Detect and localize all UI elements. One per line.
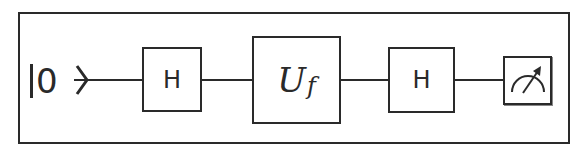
gate-label: H (163, 66, 181, 94)
wire-segment-4 (453, 79, 505, 81)
oracle-gate-uf: Uf (252, 36, 341, 124)
wire-segment-1 (74, 79, 144, 81)
wire-segment-2 (200, 79, 254, 81)
ket-value: 0 (36, 59, 58, 103)
measurement-gate (503, 56, 552, 105)
ket-bar (30, 64, 33, 98)
meter-icon (505, 58, 550, 103)
gate-label-main: U (277, 60, 306, 100)
hadamard-gate-1: H (142, 47, 202, 112)
gate-label: H (412, 66, 430, 94)
gate-label-subscript: f (307, 72, 316, 100)
input-state-ket: 0 (30, 58, 58, 102)
hadamard-gate-2: H (388, 47, 455, 113)
wire-segment-3 (339, 79, 390, 81)
